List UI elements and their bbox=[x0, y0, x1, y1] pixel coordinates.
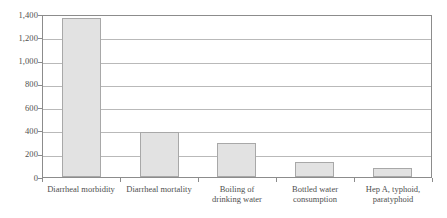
x-tick-mark bbox=[198, 178, 199, 182]
x-tick-mark bbox=[354, 178, 355, 182]
y-tick-label: 1,000 bbox=[0, 57, 38, 66]
y-tick-label: 600 bbox=[0, 104, 38, 113]
bar-chart: 02004006008001,0001,2001,400 Diarrheal m… bbox=[0, 0, 447, 218]
x-axis-label: Diarrheal mortality bbox=[120, 184, 198, 204]
x-axis-label: Hep A, typhoid,paratyphoid bbox=[354, 184, 432, 204]
bar-slot bbox=[276, 16, 354, 177]
x-axis-label-line2: consumption bbox=[277, 194, 353, 204]
x-tick-mark bbox=[120, 178, 121, 182]
bar[interactable] bbox=[295, 162, 334, 177]
x-axis-label-line1: Diarrheal mortality bbox=[126, 184, 191, 194]
bar-slot bbox=[121, 16, 199, 177]
x-tick-mark bbox=[432, 178, 433, 182]
y-tick-label: 0 bbox=[0, 174, 38, 183]
x-axis-ticks bbox=[42, 178, 432, 182]
x-tick-mark bbox=[276, 178, 277, 182]
bar-slot bbox=[198, 16, 276, 177]
x-axis-label-line1: Diarrheal morbidity bbox=[47, 184, 115, 194]
plot-area bbox=[42, 15, 432, 178]
bar[interactable] bbox=[217, 143, 256, 177]
bar[interactable] bbox=[140, 132, 179, 177]
y-tick-label: 400 bbox=[0, 127, 38, 136]
bar-slot bbox=[43, 16, 121, 177]
x-axis-label: Boiling ofdrinking water bbox=[198, 184, 276, 204]
x-axis-label: Diarrheal morbidity bbox=[42, 184, 120, 204]
y-tick-label: 800 bbox=[0, 80, 38, 89]
x-axis-label-line2: paratyphoid bbox=[355, 194, 431, 204]
y-axis: 02004006008001,0001,2001,400 bbox=[0, 0, 38, 218]
x-axis-label-line2: drinking water bbox=[199, 194, 275, 204]
bar-slot bbox=[353, 16, 431, 177]
bar[interactable] bbox=[373, 168, 412, 177]
x-axis-label-line1: Bottled water bbox=[292, 184, 338, 194]
y-tick-label: 1,200 bbox=[0, 34, 38, 43]
bar[interactable] bbox=[62, 18, 101, 178]
x-axis-label-line1: Hep A, typhoid, bbox=[366, 184, 420, 194]
x-axis-label-line1: Boiling of bbox=[220, 184, 255, 194]
x-tick-mark bbox=[42, 178, 43, 182]
x-axis-labels: Diarrheal morbidityDiarrheal mortalityBo… bbox=[42, 184, 432, 204]
x-axis-label: Bottled waterconsumption bbox=[276, 184, 354, 204]
bars bbox=[43, 16, 431, 177]
y-tick-label: 1,400 bbox=[0, 11, 38, 20]
y-tick-label: 200 bbox=[0, 150, 38, 159]
